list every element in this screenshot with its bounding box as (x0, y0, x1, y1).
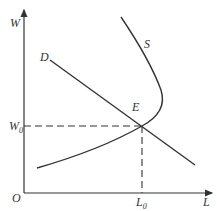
diagram-canvas (0, 0, 217, 211)
w0-sub: 0 (19, 126, 23, 135)
origin-label: O (12, 192, 21, 204)
demand-label: D (40, 51, 49, 63)
l0-main: L (136, 195, 143, 209)
equilibrium-label: E (132, 101, 139, 113)
supply-label: S (144, 38, 150, 50)
w0-label: W0 (9, 120, 23, 135)
x-axis-label: L (203, 196, 210, 208)
demand-curve (50, 60, 195, 165)
l0-sub: 0 (143, 202, 147, 211)
l0-label: L0 (136, 196, 147, 211)
diagram: W L O D S E W0 L0 (0, 0, 217, 211)
w0-main: W (9, 119, 19, 133)
y-axis-label: W (10, 17, 20, 29)
